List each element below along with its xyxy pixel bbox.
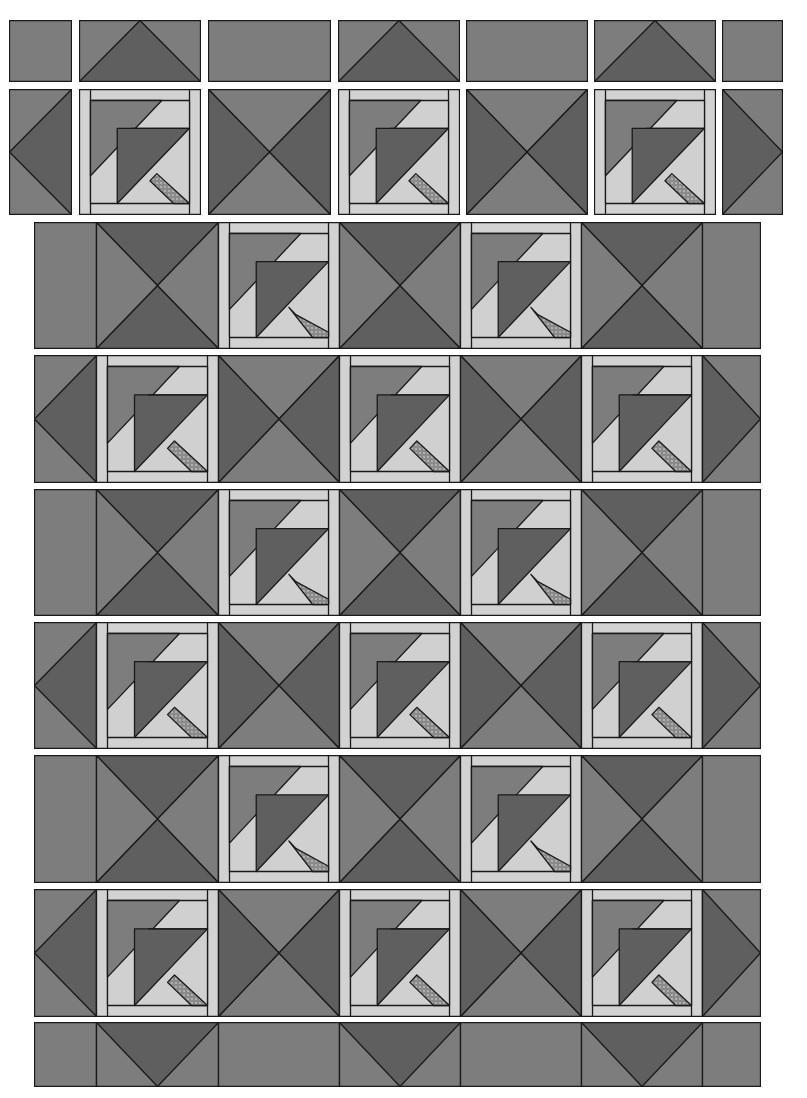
plain-square — [35, 756, 97, 883]
top-row-piece-2 — [208, 20, 331, 82]
joined-row-4 — [34, 355, 761, 483]
joined-row-7 — [34, 755, 761, 883]
sashing-right — [692, 356, 703, 483]
joined-row-3 — [34, 222, 761, 349]
sashing-right — [571, 756, 582, 883]
sashing-left — [97, 890, 108, 1017]
sashing-left — [339, 90, 350, 215]
second-row-piece-4 — [466, 89, 588, 215]
sashing-left — [219, 223, 230, 349]
plain-square — [703, 756, 761, 883]
sashing-left — [582, 356, 593, 483]
plain-square — [35, 223, 97, 349]
plain-square — [703, 490, 761, 616]
sashing-right — [692, 890, 703, 1017]
sashing-right — [329, 756, 340, 883]
sashing-left — [219, 756, 230, 883]
sashing-right — [571, 490, 582, 616]
plain-square — [35, 490, 97, 616]
sashing-right — [571, 223, 582, 349]
sashing-right — [208, 890, 219, 1017]
bottom-border-row — [34, 1022, 761, 1087]
second-row-piece-6 — [722, 89, 783, 215]
joined-row-5 — [34, 489, 761, 616]
plain-square — [35, 1023, 97, 1087]
top-row-piece-5 — [594, 20, 716, 82]
second-row-piece-1 — [79, 89, 201, 215]
sashing-right — [692, 623, 703, 749]
top-row-piece-0 — [9, 20, 72, 82]
plain-square — [209, 21, 331, 82]
sashing-left — [595, 90, 606, 215]
sashing-left — [461, 223, 472, 349]
sashing-right — [450, 890, 461, 1017]
sashing-left — [461, 756, 472, 883]
top-row-piece-3 — [338, 20, 460, 82]
plain-square — [461, 1023, 582, 1087]
joined-row-8 — [34, 889, 761, 1017]
sashing-left — [340, 890, 351, 1017]
sashing-left — [461, 490, 472, 616]
sashing-left — [80, 90, 91, 215]
sashing-right — [329, 490, 340, 616]
sashing-left — [97, 623, 108, 749]
second-row-piece-3 — [338, 89, 460, 215]
sashing-left — [582, 890, 593, 1017]
sashing-right — [450, 356, 461, 483]
top-row-piece-1 — [79, 20, 201, 82]
plain-square — [467, 21, 588, 82]
sashing-left — [340, 356, 351, 483]
plain-square — [723, 21, 783, 82]
plain-square — [703, 223, 761, 349]
plain-square — [10, 21, 72, 82]
plain-square — [219, 1023, 340, 1087]
sashing-right — [208, 356, 219, 483]
sashing-right — [449, 90, 460, 215]
sashing-right — [329, 223, 340, 349]
second-row-piece-5 — [594, 89, 716, 215]
sashing-right — [450, 623, 461, 749]
sashing-right — [208, 623, 219, 749]
top-row-piece-4 — [466, 20, 588, 82]
sashing-left — [582, 623, 593, 749]
plain-square — [703, 1023, 761, 1087]
sashing-right — [190, 90, 201, 215]
top-row-piece-6 — [722, 20, 783, 82]
joined-row-6 — [34, 622, 761, 749]
second-row-piece-2 — [208, 89, 331, 215]
sashing-right — [705, 90, 716, 215]
sashing-left — [97, 356, 108, 483]
second-row-piece-0 — [9, 89, 72, 215]
sashing-left — [219, 490, 230, 616]
sashing-left — [340, 623, 351, 749]
